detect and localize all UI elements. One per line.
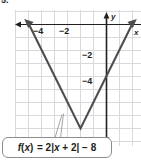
y-axis-label: y [111, 13, 115, 21]
equation-bar-close: | [76, 142, 79, 153]
equation-callout: f(x) = 2|x + 2| − 8 [2, 137, 112, 158]
equation-constant: 8 [91, 142, 97, 153]
equation-inner-var: x [54, 142, 60, 153]
equation-text: f(x) = 2|x + 2| − 8 [18, 143, 97, 153]
equation-close-paren: ) [30, 142, 33, 153]
problem-number: 5. [1, 0, 9, 5]
y-tick-label-minus4: −4 [82, 77, 92, 86]
x-tick-label-minus4: −4 [33, 27, 43, 36]
y-tick-label-minus2: −2 [82, 51, 92, 60]
x-tick-label-minus2: −2 [59, 27, 69, 36]
x-axis-label: x [134, 29, 138, 37]
figure-root: 5. [0, 0, 141, 163]
equation-minus: − [82, 142, 88, 153]
equation-plus: + [62, 142, 68, 153]
equation-equals: = [37, 142, 43, 153]
